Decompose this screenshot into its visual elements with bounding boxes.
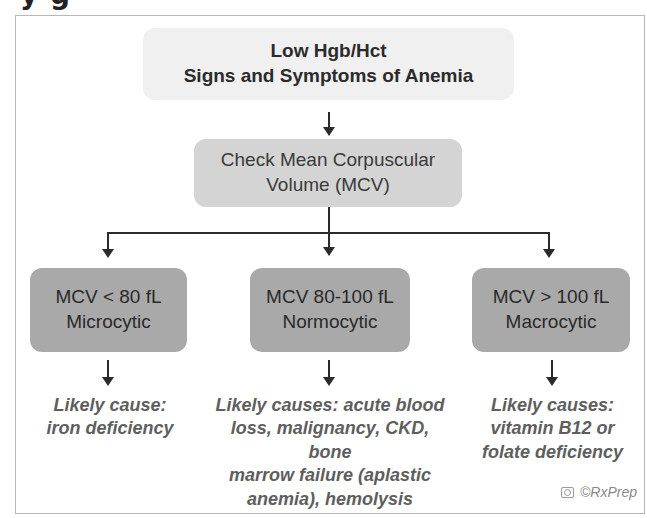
connector-left-down: [107, 232, 109, 249]
check-mcv-line2: Volume (MCV): [266, 173, 390, 198]
normocytic-node: MCV 80-100 fL Normocytic: [250, 268, 410, 352]
category-type: Normocytic: [282, 310, 377, 335]
macrocytic-node: MCV > 100 fL Macrocytic: [472, 268, 630, 352]
check-mcv-line1: Check Mean Corpuscular: [221, 148, 435, 173]
arrowhead-icon: [323, 247, 335, 256]
cause-line: iron deficiency: [20, 417, 200, 440]
category-range: MCV 80-100 fL: [266, 285, 394, 310]
cause-line: folate deficiency: [470, 441, 635, 464]
category-type: Microcytic: [66, 310, 150, 335]
connector-mcv-down: [328, 207, 330, 247]
cause-line: marrow failure (aplastic: [208, 464, 452, 487]
cause-line: loss, malignancy, CKD, bone: [208, 417, 452, 464]
start-node-line2: Signs and Symptoms of Anemia: [184, 64, 474, 89]
macrocytic-causes: Likely causes: vitamin B12 or folate def…: [470, 394, 635, 464]
category-type: Macrocytic: [506, 310, 597, 335]
start-node: Low Hgb/Hct Signs and Symptoms of Anemia: [143, 28, 514, 100]
arrowhead-icon: [543, 249, 555, 258]
connector-normocytic-cause: [328, 360, 330, 378]
microcytic-node: MCV < 80 fL Microcytic: [30, 268, 187, 352]
watermark: ©RxPrep: [561, 484, 637, 500]
connector-start-to-mcv: [328, 112, 330, 128]
cause-line: Likely causes:: [470, 394, 635, 417]
category-range: MCV > 100 fL: [493, 285, 610, 310]
cause-line: Likely causes: acute blood: [208, 394, 452, 417]
start-node-line1: Low Hgb/Hct: [270, 39, 386, 64]
cropped-heading: y g: [20, 0, 71, 11]
arrowhead-icon: [102, 377, 114, 386]
cause-line: anemia), hemolysis: [208, 488, 452, 511]
camera-icon: [561, 487, 574, 498]
arrowhead-icon: [102, 249, 114, 258]
watermark-text: ©RxPrep: [580, 484, 637, 500]
cause-line: Likely cause:: [20, 394, 200, 417]
normocytic-causes: Likely causes: acute blood loss, maligna…: [208, 394, 452, 511]
microcytic-causes: Likely cause: iron deficiency: [20, 394, 200, 441]
check-mcv-node: Check Mean Corpuscular Volume (MCV): [194, 139, 462, 207]
arrowhead-icon: [546, 377, 558, 386]
cause-line: vitamin B12 or: [470, 417, 635, 440]
connector-horizontal: [107, 232, 550, 234]
arrowhead-icon: [323, 127, 335, 136]
connector-right-down: [548, 232, 550, 249]
connector-microcytic-cause: [107, 360, 109, 378]
connector-macrocytic-cause: [551, 360, 553, 378]
category-range: MCV < 80 fL: [55, 285, 161, 310]
arrowhead-icon: [323, 377, 335, 386]
